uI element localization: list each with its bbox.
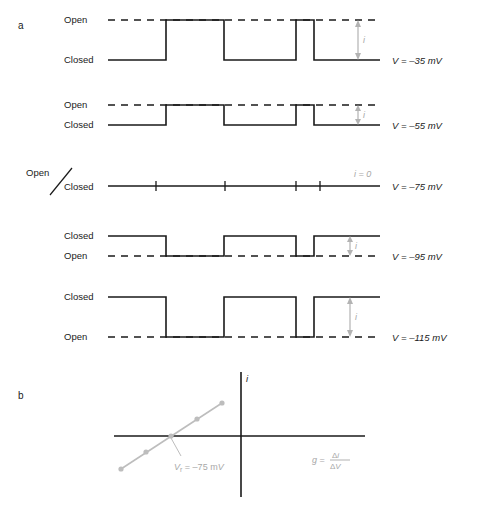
svg-text:g =: g = xyxy=(312,455,325,465)
figure-canvas: Open Closed i V = –35 mV Open Closed i V… xyxy=(0,0,484,512)
trace-55mv-recording xyxy=(108,105,380,125)
trace-75mv-voltage-label: V = –75 mV xyxy=(392,181,444,192)
trace-55mv-voltage-label: V = –55 mV xyxy=(392,120,444,131)
trace-95mv-recording xyxy=(108,236,380,256)
trace-115mv-bottom-label: Open xyxy=(64,331,87,342)
iv-data-point xyxy=(219,400,224,405)
trace-75mv-current-label: i = 0 xyxy=(354,169,371,179)
trace-115mv-current-arrow xyxy=(347,297,353,337)
iv-conductance-annotation: g = Δi ΔV xyxy=(312,451,350,471)
trace-55mv-current-arrow xyxy=(355,105,361,125)
iv-conductance-numerator: Δi xyxy=(332,451,339,460)
iv-reversal-label: Vr = –75 mV xyxy=(174,462,225,473)
trace-115mv-current-label: i xyxy=(355,312,358,322)
trace-35mv-current-arrow xyxy=(355,20,361,60)
iv-conductance-denominator: ΔV xyxy=(330,462,341,471)
trace-35mv-group: Open Closed i V = –35 mV xyxy=(64,14,444,66)
trace-35mv-bottom-label: Closed xyxy=(64,54,94,65)
iv-data-point xyxy=(168,433,173,438)
trace-35mv-top-label: Open xyxy=(64,14,87,25)
trace-55mv-top-label: Open xyxy=(64,99,87,110)
trace-115mv-voltage-label: V = –115 mV xyxy=(392,332,448,343)
trace-55mv-current-label: i xyxy=(363,110,366,120)
iv-data-point xyxy=(118,466,123,471)
trace-95mv-top-label: Closed xyxy=(64,230,94,241)
iv-y-axis-label: i xyxy=(246,373,249,384)
iv-reversal-leader-line xyxy=(171,438,181,456)
iv-plot: i Vr = –75 mV g = Δi ΔV xyxy=(114,372,365,497)
trace-35mv-voltage-label: V = –35 mV xyxy=(392,55,444,66)
trace-95mv-voltage-label: V = –95 mV xyxy=(392,251,444,262)
trace-95mv-group: Closed Open i V = –95 mV xyxy=(64,230,444,262)
iv-data-point xyxy=(143,449,148,454)
trace-115mv-group: Closed Open i V = –115 mV xyxy=(64,291,448,343)
trace-35mv-current-label: i xyxy=(363,35,366,45)
iv-data-point xyxy=(194,416,199,421)
trace-115mv-recording xyxy=(108,297,380,337)
trace-75mv-top-label: Open xyxy=(26,167,49,178)
trace-95mv-current-arrow xyxy=(347,236,353,256)
trace-55mv-bottom-label: Closed xyxy=(64,119,94,130)
trace-75mv-bottom-label: Closed xyxy=(64,181,94,192)
trace-115mv-top-label: Closed xyxy=(64,291,94,302)
trace-55mv-group: Open Closed i V = –55 mV xyxy=(64,99,444,131)
trace-95mv-current-label: i xyxy=(355,241,358,251)
trace-95mv-bottom-label: Open xyxy=(64,250,87,261)
trace-35mv-recording xyxy=(108,20,380,60)
trace-75mv-group: Open Closed i = 0 V = –75 mV xyxy=(26,167,444,195)
